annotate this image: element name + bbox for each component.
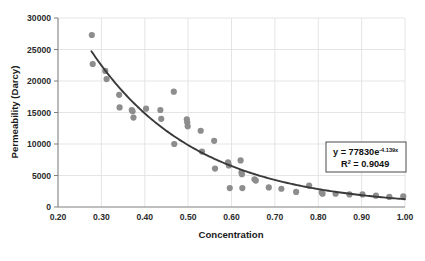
data-point [185, 123, 191, 129]
data-point [227, 185, 233, 191]
x-tick-label: 0.40 [136, 212, 153, 222]
y-tick-label: 20000 [27, 76, 51, 86]
y-axis-ticks [54, 18, 58, 207]
data-point [171, 141, 177, 147]
x-tick-label: 0.30 [93, 212, 110, 222]
x-axis-tick-labels: 0.20 0.30 0.40 0.50 0.60 0.70 0.80 0.90 … [50, 212, 414, 222]
equation-prefix: y = 77830e [333, 147, 379, 157]
data-point [198, 128, 204, 134]
y-tick-label: 15000 [27, 108, 51, 118]
data-point [278, 186, 284, 192]
y-tick-label: 0 [46, 202, 51, 212]
scatter-chart: 30000 25000 20000 15000 10000 5000 0 0.2… [0, 0, 425, 261]
chart-container: 30000 25000 20000 15000 10000 5000 0 0.2… [0, 0, 425, 261]
data-point [130, 108, 136, 114]
data-point [89, 32, 95, 38]
x-tick-label: 0.60 [223, 212, 240, 222]
data-point [116, 104, 122, 110]
y-tick-label: 5000 [32, 171, 51, 181]
r-squared-value: = 0.9049 [351, 159, 390, 169]
data-point [253, 177, 259, 183]
data-point [319, 191, 325, 197]
equation-exponent: -4.139x [379, 147, 399, 153]
y-tick-label: 25000 [27, 45, 51, 55]
equation-box: y = 77830e-4.139x R2 = 0.9049 [326, 142, 406, 172]
data-point [239, 185, 245, 191]
data-point [130, 114, 136, 120]
data-point [103, 76, 109, 82]
x-tick-label: 0.80 [310, 212, 327, 222]
y-tick-label: 30000 [27, 13, 51, 23]
data-point [143, 106, 149, 112]
x-tick-label: 0.90 [353, 212, 370, 222]
data-point [157, 107, 163, 113]
data-point [212, 165, 218, 171]
y-axis-title: Permeability (Darcy) [9, 66, 20, 159]
x-tick-label: 1.00 [397, 212, 414, 222]
y-tick-label: 10000 [27, 139, 51, 149]
data-point [238, 157, 244, 163]
data-point [239, 171, 245, 177]
data-point [293, 189, 299, 195]
x-tick-label: 0.70 [267, 212, 284, 222]
data-point [90, 61, 96, 67]
y-axis-tick-labels: 30000 25000 20000 15000 10000 5000 0 [27, 13, 51, 212]
x-tick-label: 0.20 [50, 212, 67, 222]
x-axis-title: Concentration [198, 229, 263, 240]
x-tick-label: 0.50 [180, 212, 197, 222]
data-point [211, 138, 217, 144]
data-point [266, 184, 272, 190]
data-point [158, 116, 164, 122]
data-point [116, 92, 122, 98]
data-point [171, 89, 177, 95]
